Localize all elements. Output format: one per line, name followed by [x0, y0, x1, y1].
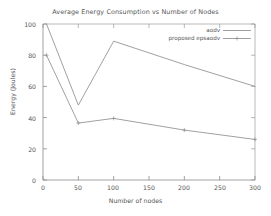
- series-marker-1: [112, 116, 116, 120]
- series-marker-1: [76, 121, 80, 125]
- series-marker-1: [253, 137, 257, 141]
- plot-area: [0, 0, 271, 216]
- series-line-1: [47, 55, 255, 139]
- series-line-0: [47, 24, 255, 105]
- series-marker-1: [45, 53, 49, 57]
- chart-container: Average Energy Consumption vs Number of …: [0, 0, 271, 216]
- series-marker-1: [182, 128, 186, 132]
